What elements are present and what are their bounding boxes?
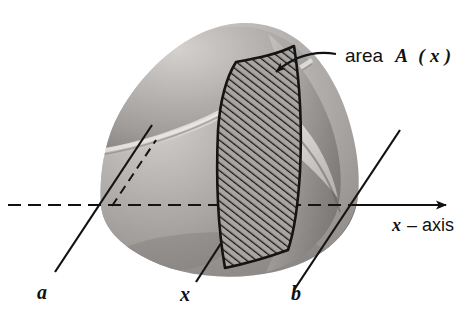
- plane-label-a: a: [37, 281, 47, 303]
- area-label-group: area A ( x ): [345, 45, 451, 67]
- area-label-arg: x: [429, 45, 440, 66]
- plane-label-b: b: [291, 282, 301, 304]
- area-label-symbol: A: [394, 45, 408, 66]
- area-label-word: area: [345, 45, 383, 66]
- x-axis-label-dash: –: [407, 215, 417, 235]
- figure-root: area A ( x ) x – axis a x b: [0, 0, 473, 320]
- plane-label-x: x: [179, 283, 190, 305]
- solid-cross-section-figure: area A ( x ) x – axis a x b: [0, 0, 473, 320]
- x-axis-label-word: axis: [422, 215, 454, 235]
- area-label-close-paren: ): [443, 45, 451, 67]
- x-axis-label-symbol: x: [391, 215, 401, 235]
- area-label-open-paren: (: [418, 45, 426, 67]
- x-axis-label-group: x – axis: [391, 215, 454, 235]
